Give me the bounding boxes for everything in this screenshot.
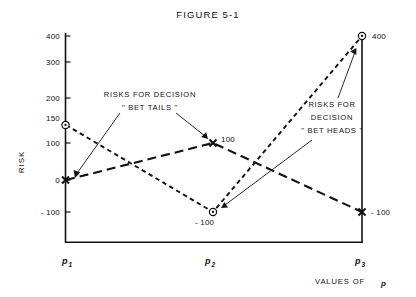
y-tick-label-150: 150 <box>46 114 60 123</box>
annotation-bet-tails-line2: " BET TAILS " <box>122 103 178 112</box>
x-tick-label-p2-sub: 2 <box>211 261 216 268</box>
y-axis-title: RISK <box>17 151 26 174</box>
y-tick-label-neg100: - 100 <box>41 208 61 217</box>
annotation-bet-heads-line3: " BET HEADS " <box>301 126 363 135</box>
point-label-p3-tails: - 100 <box>371 208 391 217</box>
x-tick-label-p3: p 3 <box>354 256 366 268</box>
annotation-arrow-heads-down <box>221 140 312 208</box>
y-tick-label-100: 100 <box>46 139 60 148</box>
y-tick-label-300: 300 <box>46 58 60 67</box>
x-axis-caption-variable: p <box>380 279 386 288</box>
bet-heads-markers <box>62 32 366 215</box>
figure-title: FIGURE 5-1 <box>176 9 239 20</box>
annotation-bet-heads-line1: RISKS FOR <box>308 100 355 109</box>
x-axis-caption-text: VALUES OF <box>315 277 365 286</box>
series-bet-heads-line <box>66 36 362 212</box>
marker-circle-p3 <box>358 32 365 39</box>
bet-tails-markers <box>62 140 366 216</box>
x-tick-label-p3-base: p <box>354 256 361 266</box>
point-label-p3-heads: 400 <box>372 32 386 41</box>
annotation-bet-tails-line1: RISKS FOR DECISION <box>104 90 196 99</box>
point-label-p2-tails: 100 <box>221 135 235 144</box>
x-tick-label-p1-base: p <box>61 256 68 266</box>
annotation-bet-heads-line2: DECISION <box>311 113 353 122</box>
x-tick-label-p1: p 1 <box>61 256 73 268</box>
annotation-arrow-heads-up <box>338 48 356 98</box>
x-tick-label-p3-sub: 3 <box>362 261 366 268</box>
figure-container: FIGURE 5-1 400 300 200 150 100 0 - 100 R… <box>0 0 416 297</box>
series-bet-tails-line <box>66 143 362 212</box>
x-tick-label-p1-sub: 1 <box>69 261 73 268</box>
y-tick-label-200: 200 <box>46 94 60 103</box>
marker-circle-p2 <box>209 208 216 215</box>
marker-circle-p1 <box>62 121 69 128</box>
y-tick-label-400: 400 <box>46 32 60 41</box>
x-axis-caption: VALUES OF p <box>315 277 386 288</box>
y-tick-label-0: 0 <box>55 176 60 185</box>
marker-x-p2 <box>210 140 217 147</box>
x-tick-label-p2-base: p <box>204 256 211 266</box>
annotation-arrow-tails-right <box>176 113 208 139</box>
point-label-p2-heads: - 100 <box>195 218 215 227</box>
x-tick-label-p2: p 2 <box>204 256 216 268</box>
figure-5-1-chart: FIGURE 5-1 400 300 200 150 100 0 - 100 R… <box>0 0 416 297</box>
